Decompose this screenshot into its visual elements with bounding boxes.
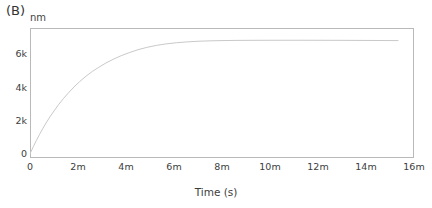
x-tick-label: 16m [403, 161, 424, 172]
y-axis-unit-label: nm [30, 12, 46, 23]
figure-panel-b: (B) nm 02k4k6k 02m4m6m8m10m12m14m16m Tim… [0, 0, 432, 208]
x-tick-label: 12m [307, 161, 328, 172]
x-tick-label: 8m [214, 161, 229, 172]
y-tick-label: 2k [1, 115, 27, 126]
data-curve [30, 40, 398, 154]
x-tick-label: 14m [355, 161, 376, 172]
x-axis-tick-labels: 02m4m6m8m10m12m14m16m [0, 161, 432, 177]
x-tick-label: 6m [166, 161, 181, 172]
x-tick-label: 4m [118, 161, 133, 172]
x-axis-title: Time (s) [0, 186, 432, 198]
x-tick-label: 2m [70, 161, 85, 172]
x-tick-label: 0 [27, 161, 33, 172]
x-tick-label: 10m [259, 161, 280, 172]
y-tick-label: 6k [1, 48, 27, 59]
plot-area [30, 28, 414, 158]
y-tick-label: 0 [1, 148, 27, 159]
y-tick-label: 4k [1, 82, 27, 93]
